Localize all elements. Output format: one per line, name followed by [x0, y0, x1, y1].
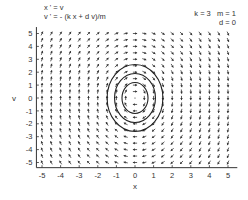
field-arrow	[87, 83, 90, 87]
field-arrow	[59, 122, 62, 126]
y-tick-label: 5	[28, 29, 32, 38]
x-tick-label: 5	[226, 171, 230, 180]
x-tick-label: 2	[170, 171, 174, 180]
field-arrow	[96, 32, 99, 35]
field-arrow	[208, 96, 211, 100]
field-arrow	[180, 57, 182, 61]
field-arrow	[217, 128, 220, 132]
parameter-d: d = 0	[219, 18, 236, 27]
arrow-head	[135, 39, 137, 42]
field-arrow	[199, 45, 201, 49]
field-arrow	[50, 148, 52, 152]
field-arrow	[190, 89, 193, 93]
field-arrow	[217, 135, 219, 139]
field-arrow	[59, 109, 62, 113]
field-arrow	[208, 70, 211, 74]
field-arrow	[124, 58, 128, 60]
field-arrow	[142, 123, 146, 125]
field-arrow	[124, 45, 128, 48]
arrow-head	[217, 104, 220, 106]
x-tick-label: -5	[39, 171, 46, 180]
field-arrow	[41, 135, 43, 139]
field-arrow	[217, 148, 219, 152]
field-arrow	[217, 57, 219, 61]
field-arrow	[199, 161, 201, 164]
field-arrow	[162, 122, 164, 126]
field-arrow	[152, 161, 156, 163]
field-arrow	[105, 161, 109, 163]
field-arrow	[152, 45, 156, 47]
y-tick-label: 0	[28, 94, 32, 103]
field-arrow	[227, 128, 230, 132]
vector-field	[41, 32, 230, 165]
y-tick-label: 3	[28, 55, 32, 64]
arrow-head	[41, 96, 44, 98]
arrow-head	[135, 77, 137, 80]
field-arrow	[50, 161, 52, 165]
field-arrow	[208, 141, 210, 145]
arrow-head	[69, 96, 72, 98]
field-arrow	[208, 83, 211, 87]
field-arrow	[97, 77, 99, 81]
y-tick-label: -5	[26, 158, 33, 167]
field-arrow	[105, 45, 108, 48]
field-arrow	[97, 122, 99, 126]
field-arrow	[208, 102, 211, 106]
field-arrow	[227, 135, 229, 139]
field-arrow	[171, 70, 173, 74]
y-tick-label: -3	[26, 132, 33, 141]
field-arrow	[69, 38, 71, 42]
field-arrow	[133, 90, 137, 93]
field-arrow	[208, 32, 210, 36]
field-arrow	[180, 161, 183, 164]
field-arrow	[162, 109, 164, 113]
field-arrow	[87, 32, 90, 35]
field-arrow	[87, 122, 89, 126]
field-arrow	[41, 57, 43, 61]
field-arrow	[133, 84, 137, 87]
field-arrow	[171, 142, 174, 145]
field-arrow	[133, 45, 137, 48]
field-arrow	[199, 83, 202, 87]
field-arrow	[142, 71, 146, 73]
arrow-head	[59, 89, 62, 91]
field-arrow	[199, 115, 202, 119]
x-tick-label: 1	[152, 171, 156, 180]
arrow-head	[217, 66, 220, 68]
field-arrow	[106, 70, 108, 74]
field-arrow	[59, 77, 62, 81]
field-arrow	[87, 51, 89, 54]
field-arrow	[217, 89, 220, 93]
field-arrow	[115, 142, 119, 144]
arrow-head	[133, 116, 135, 119]
field-arrow	[69, 109, 72, 113]
field-arrow	[218, 51, 220, 55]
field-arrow	[41, 154, 43, 158]
field-arrow	[208, 51, 210, 55]
field-arrow	[227, 122, 230, 126]
field-arrow	[41, 77, 44, 81]
arrow-head	[135, 90, 137, 93]
field-arrow	[50, 64, 53, 68]
arrow-head	[69, 109, 72, 111]
field-arrow	[69, 141, 71, 145]
field-arrow	[180, 122, 182, 126]
field-arrow	[227, 102, 230, 106]
field-arrow	[59, 89, 62, 93]
field-arrow	[208, 64, 210, 68]
field-arrow	[152, 39, 156, 41]
field-arrow	[115, 129, 118, 132]
field-arrow	[142, 39, 146, 42]
field-arrow	[78, 122, 80, 126]
field-arrow	[218, 32, 220, 36]
y-tick-label: 1	[28, 81, 32, 90]
arrow-head	[97, 96, 100, 98]
field-arrow	[78, 57, 80, 61]
arrow-head	[78, 89, 81, 91]
field-arrow	[180, 89, 183, 93]
field-arrow	[199, 64, 201, 68]
arrow-head	[217, 111, 220, 113]
field-arrow	[78, 51, 80, 55]
field-arrow	[227, 64, 230, 68]
field-arrow	[69, 115, 72, 119]
